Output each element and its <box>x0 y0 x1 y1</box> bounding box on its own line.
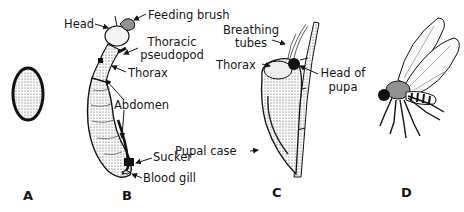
label-head: Head <box>64 18 94 30</box>
label-blood-gill: Blood gill <box>143 172 196 184</box>
panel-label-b: B <box>122 188 132 203</box>
label-tubes: tubes <box>230 37 272 49</box>
panel-label-d: D <box>401 185 412 200</box>
label-thorax-pupa: Thorax <box>216 59 256 71</box>
label-abdomen: Abdomen <box>114 99 169 111</box>
label-feeding-brush: Feeding brush <box>148 9 229 21</box>
panel-label-c: C <box>272 185 282 200</box>
figure-caption <box>6 205 461 212</box>
larva-drawing <box>88 16 135 177</box>
label-head-of: Head of <box>314 67 372 79</box>
egg-drawing <box>13 68 43 120</box>
adult-fly-drawing <box>378 18 459 138</box>
label-breathing: Breathing <box>222 24 280 36</box>
label-thoracic: Thoracic <box>141 36 203 48</box>
panel-label-a: A <box>23 188 33 203</box>
label-pseudopod: pseudopod <box>139 49 205 61</box>
label-pupa: pupa <box>314 81 372 93</box>
insect-life-cycle-figure: Head Feeding brush Thoracic pseudopod Th… <box>0 0 464 212</box>
label-thorax-larva: Thorax <box>128 67 168 79</box>
label-pupal-case: Pupal case <box>175 145 237 157</box>
